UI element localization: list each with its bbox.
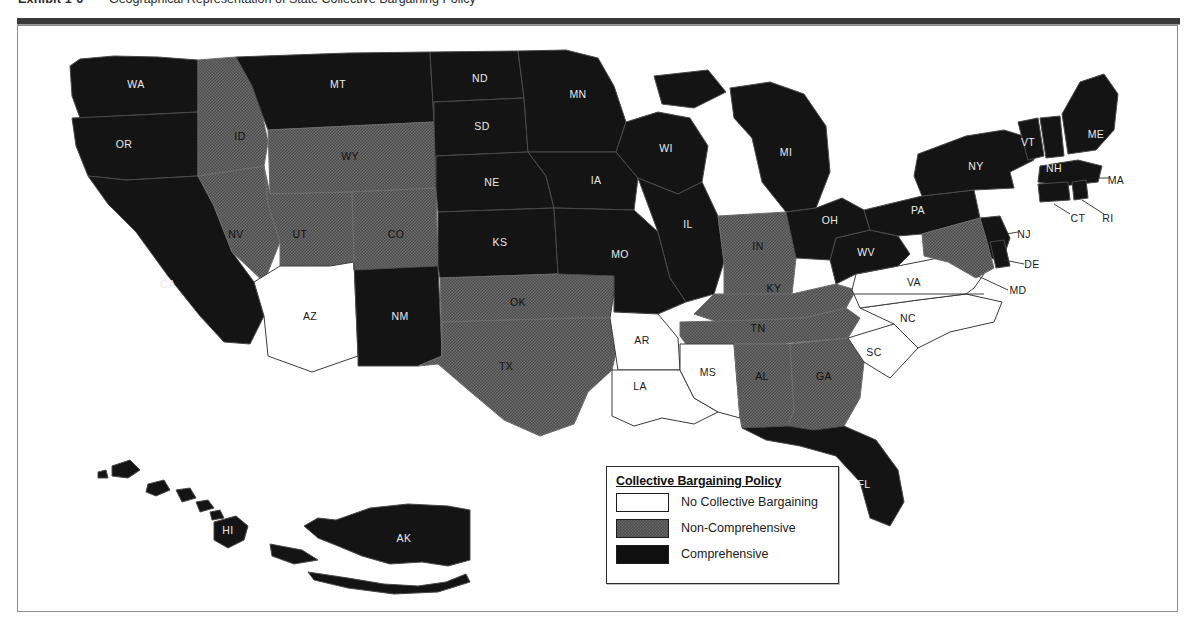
state-CO[interactable] [352,188,438,270]
state-WY[interactable] [268,122,436,194]
leader-RI [1082,200,1104,214]
state-IN[interactable] [718,212,796,298]
state-MN[interactable] [518,50,626,152]
exhibit-caption: Exhibit 1-6 Geographical Representation … [18,0,476,7]
state-RI[interactable] [1072,180,1088,200]
exhibit-title: Geographical Representation of State Col… [109,0,476,6]
leader-MD [978,276,1008,290]
state-AL[interactable] [734,344,794,428]
state-AK[interactable] [270,504,470,594]
legend-item-non-comprehensive[interactable]: Non-Comprehensive [616,516,838,540]
state-OR[interactable] [72,112,198,180]
legend-swatch-no-collective-bargaining [616,493,669,512]
state-NM[interactable] [354,262,442,366]
legend-item-no-collective-bargaining[interactable]: No Collective Bargaining [616,490,838,514]
state-KS[interactable] [438,208,558,278]
state-label-CT: CT [1071,212,1086,224]
state-AZ[interactable] [254,262,358,372]
legend-label-no-collective-bargaining: No Collective Bargaining [681,495,818,509]
legend-title: Collective Bargaining Policy [616,474,838,488]
state-GA[interactable] [788,338,864,430]
legend-label-non-comprehensive: Non-Comprehensive [681,521,796,535]
state-MA[interactable] [1038,160,1102,186]
frame-top-rule [17,18,1180,24]
map-legend: Collective Bargaining Policy No Collecti… [606,466,839,584]
legend-label-comprehensive: Comprehensive [681,547,769,561]
state-CT[interactable] [1038,182,1070,202]
leader-CT [1054,204,1070,214]
map-svg: WA OR CA NV ID MT WY UT AZ CO NM ND SD N… [18,26,1179,611]
figure-frame: WA OR CA NV ID MT WY UT AZ CO NM ND SD N… [17,25,1178,612]
legend-swatch-comprehensive [616,545,669,564]
state-ME[interactable] [1062,74,1118,154]
state-WA[interactable] [70,56,198,118]
state-HI[interactable] [98,460,248,548]
state-label-MA: MA [1108,174,1125,186]
legend-item-comprehensive[interactable]: Comprehensive [616,542,838,566]
state-label-DE: DE [1024,258,1039,270]
us-choropleth-map: WA OR CA NV ID MT WY UT AZ CO NM ND SD N… [18,26,1179,611]
exhibit-label: Exhibit 1-6 [18,0,83,6]
state-label-NJ: NJ [1017,228,1031,240]
state-NY[interactable] [914,130,1034,196]
state-TX[interactable] [418,318,618,436]
state-MT[interactable] [236,52,434,130]
state-label-MD: MD [1009,284,1026,296]
legend-swatch-non-comprehensive [616,519,669,538]
